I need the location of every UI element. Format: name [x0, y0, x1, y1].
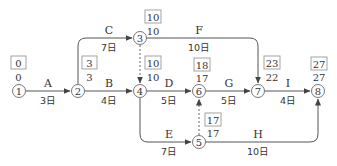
activity-E: E 7日 — [140, 98, 191, 157]
earliest-time: 3 — [86, 72, 92, 83]
activity-duration: 5日 — [221, 95, 237, 106]
node-number: 3 — [137, 33, 143, 44]
latest-time-box: 18 — [196, 60, 209, 71]
latest-time-box: 10 — [147, 12, 160, 23]
node-1: 1 0 0 — [11, 56, 26, 98]
latest-time-box: 10 — [147, 58, 160, 69]
activity-label: A — [43, 77, 53, 90]
activity-label: F — [195, 24, 203, 37]
activity-duration: 4日 — [101, 95, 117, 106]
earliest-time: 27 — [313, 72, 326, 83]
activity-duration: 10日 — [247, 146, 269, 157]
latest-time-box: 23 — [266, 58, 279, 69]
node-number: 4 — [137, 86, 143, 97]
earliest-time: 17 — [207, 128, 220, 139]
node-3: 3 10 10 — [134, 10, 162, 45]
latest-time-box: 0 — [15, 58, 21, 69]
activity-label: D — [165, 77, 174, 90]
node-8: 8 27 27 — [311, 57, 327, 98]
activity-label: G — [225, 77, 234, 90]
node-number: 8 — [315, 86, 321, 97]
activity-duration: 4日 — [280, 95, 296, 106]
latest-time-box: 17 — [207, 115, 220, 126]
earliest-time: 10 — [147, 26, 160, 37]
earliest-time: 0 — [15, 72, 21, 83]
earliest-time: 22 — [266, 72, 279, 83]
node-number: 5 — [196, 137, 202, 148]
earliest-time: 10 — [147, 72, 160, 83]
activity-H: H 10日 — [206, 99, 318, 157]
activity-G: G 5日 — [206, 77, 250, 106]
activity-A: A 3日 — [26, 77, 70, 106]
activity-duration: 3日 — [40, 95, 56, 106]
node-number: 1 — [16, 86, 22, 97]
activity-duration: 7日 — [161, 146, 177, 157]
node-number: 6 — [196, 86, 202, 97]
activity-label: E — [165, 128, 173, 141]
node-number: 7 — [255, 86, 261, 97]
earliest-time: 17 — [196, 73, 209, 84]
activity-duration: 5日 — [161, 95, 177, 106]
activity-label: H — [253, 128, 263, 141]
node-number: 2 — [75, 86, 81, 97]
activity-label: C — [105, 24, 113, 37]
node-6: 6 18 17 — [193, 58, 211, 98]
activity-duration: 7日 — [101, 42, 117, 53]
latest-time-box: 27 — [313, 59, 326, 70]
network-diagram: A 3日 B 4日 C 7日 F 10日 D 5日 G 5日 I 4日 — [0, 0, 337, 166]
latest-time-box: 3 — [86, 58, 92, 69]
activity-label: I — [286, 77, 290, 90]
activity-duration: 10日 — [188, 42, 210, 53]
node-5: 5 17 17 — [193, 113, 222, 149]
activity-label: B — [105, 77, 113, 90]
